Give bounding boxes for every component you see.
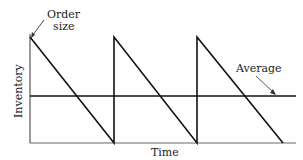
order-size-label-line2: size [53,20,74,33]
x-axis-label: Time [151,146,179,159]
average-label: Average [235,62,282,75]
inventory-sawtooth-diagram: Order size Average Inventory Time [0,0,303,160]
average-arrow-icon [256,76,273,92]
y-axis-label: Inventory [12,63,25,118]
order-size-arrow-icon [32,20,44,36]
inventory-sawtooth-line [30,37,283,143]
